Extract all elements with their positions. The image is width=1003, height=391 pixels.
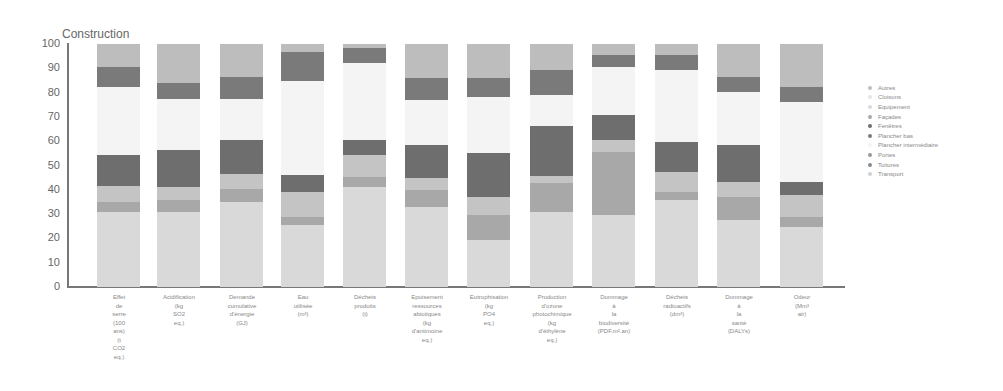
bar-segment (405, 207, 448, 287)
legend-item: Cloisons (868, 93, 938, 103)
stacked-bar (717, 44, 760, 287)
bar-segment (220, 174, 263, 189)
bar-segment (780, 182, 823, 195)
bar-segment (220, 189, 263, 202)
bar-segment (780, 227, 823, 287)
x-tick-label: Déchets produits (t) (335, 293, 395, 319)
bar-segment (343, 48, 386, 63)
stacked-bar (405, 44, 448, 287)
y-tick-label: 30 (38, 207, 60, 219)
bar-segment (717, 77, 760, 92)
bar-segment (343, 177, 386, 187)
legend-item: Autres (868, 83, 938, 93)
x-tick-label: Dommage à la biodiversité (PDF.m².an) (584, 293, 644, 336)
bar-segment (157, 83, 200, 99)
bar-segment (592, 152, 635, 215)
chart-title: Construction (62, 27, 129, 41)
bar-segment (97, 155, 140, 186)
bar-segment (467, 44, 510, 78)
y-tick-label: 80 (38, 86, 60, 98)
bar-segment (655, 44, 698, 55)
bar-segment (281, 81, 324, 175)
bar-segment (281, 52, 324, 81)
bar-segment (405, 190, 448, 207)
legend-label: Façades (878, 114, 901, 120)
y-tick-label: 90 (38, 61, 60, 73)
bar-segment (157, 212, 200, 287)
bar-segment (157, 200, 200, 212)
bar-segment (343, 140, 386, 155)
bar-segment (157, 150, 200, 187)
stacked-bar (220, 44, 263, 287)
bar-segment (220, 99, 263, 140)
bar-segment (530, 212, 573, 287)
bar-segment (717, 145, 760, 182)
legend: AutresCloisonsEquipementFaçadesFenêtresP… (868, 83, 938, 179)
bar-segment (780, 87, 823, 102)
bar-segment (530, 70, 573, 95)
x-tick-label: Demande cumulative d'énergie (GJ) (212, 293, 272, 327)
bar-segment (780, 102, 823, 182)
bar-segment (592, 215, 635, 287)
y-tick-label: 20 (38, 231, 60, 243)
bar-segment (592, 55, 635, 67)
legend-label: Transport (878, 171, 903, 177)
bar-segment (530, 126, 573, 176)
bar-segment (780, 44, 823, 87)
x-tick-label: Odeur (Mm³ air) (772, 293, 832, 319)
legend-item: Plancher bas (868, 131, 938, 141)
y-axis (67, 43, 69, 288)
bar-segment (780, 195, 823, 217)
bar-segment (467, 215, 510, 240)
legend-label: Toitures (878, 162, 899, 168)
x-tick-label: Epuisement ressources abiotiques (kg d'a… (397, 293, 457, 344)
bar-segment (592, 140, 635, 152)
legend-item: Equipement (868, 102, 938, 112)
x-tick-label: Eau utilisée (m³) (273, 293, 333, 319)
bar-segment (157, 99, 200, 150)
y-tick-label: 70 (38, 110, 60, 122)
bar-segment (780, 217, 823, 227)
bar-segment (592, 44, 635, 55)
stacked-bar (97, 44, 140, 287)
bar-segment (281, 44, 324, 52)
legend-swatch-icon (868, 95, 872, 99)
legend-label: Cloisons (878, 94, 901, 100)
bar-segment (405, 100, 448, 145)
bar-segment (530, 176, 573, 183)
bar-segment (281, 175, 324, 192)
bar-segment (717, 92, 760, 145)
legend-item: Façades (868, 112, 938, 122)
stacked-bar (343, 44, 386, 287)
bar-segment (220, 44, 263, 77)
bar-segment (97, 44, 140, 67)
bar-segment (717, 197, 760, 220)
y-tick-label: 10 (38, 256, 60, 268)
bar-segment (655, 55, 698, 70)
bar-segment (530, 95, 573, 126)
legend-label: Plancher bas (878, 133, 913, 139)
bar-segment (467, 78, 510, 96)
bar-segment (220, 202, 263, 287)
bar-segment (467, 97, 510, 154)
legend-item: Fenêtres (868, 121, 938, 131)
legend-label: Autres (878, 85, 895, 91)
bar-segment (405, 178, 448, 190)
legend-swatch-icon (868, 163, 872, 167)
x-tick-label: Effet de serre (100 ans) (t CO2 eq.) (89, 293, 149, 361)
bar-segment (655, 142, 698, 172)
legend-item: Plancher intermédiaire (868, 141, 938, 151)
y-tick-label: 0 (38, 280, 60, 292)
stacked-bar (655, 44, 698, 287)
bar-segment (343, 44, 386, 48)
x-tick-label: Déchets radioactifs (dm³) (647, 293, 707, 319)
legend-label: Fenêtres (878, 123, 902, 129)
bar-segment (655, 172, 698, 192)
y-tick-label: 50 (38, 159, 60, 171)
legend-item: Toitures (868, 160, 938, 170)
bar-segment (97, 202, 140, 212)
bar-segment (281, 217, 324, 225)
legend-swatch-icon (868, 143, 872, 147)
x-tick-label: Dommage à la santé (DALYs) (709, 293, 769, 336)
bar-segment (717, 182, 760, 197)
